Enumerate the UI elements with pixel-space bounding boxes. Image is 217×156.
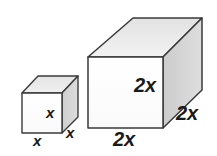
cube-comparison-figure: x x x 2x 2x 2x <box>0 0 217 156</box>
small-cube-depth-edge-label: x <box>66 125 74 140</box>
large-cube-bottom-edge-label: 2x <box>113 129 135 149</box>
small-cube-bottom-edge-label: x <box>33 133 41 148</box>
small-cube-front-face <box>22 93 62 133</box>
small-cube-front-face-label: x <box>46 105 54 120</box>
large-cube-depth-edge-label: 2x <box>176 103 198 123</box>
large-cube-front-face-label: 2x <box>134 75 156 95</box>
